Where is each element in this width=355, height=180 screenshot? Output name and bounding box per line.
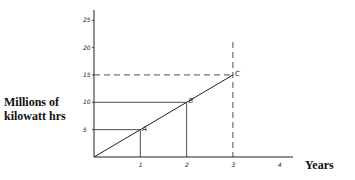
y-tick-label: 15 [83, 71, 91, 78]
x-tick-label: 4 [278, 161, 282, 168]
point-label-a: A [141, 125, 147, 133]
line-chart: 5101520251234ABC [0, 0, 355, 180]
x-tick-label: 3 [231, 161, 235, 168]
y-tick-label: 25 [83, 16, 91, 23]
series-line [94, 75, 233, 157]
x-tick-label: 1 [139, 161, 143, 168]
x-tick-label: 2 [185, 161, 189, 168]
y-tick-label: 5 [83, 126, 87, 133]
point-label-c: C [235, 70, 240, 78]
y-tick-label: 20 [83, 44, 91, 51]
point-label-b: B [189, 97, 194, 105]
y-tick-label: 10 [83, 98, 91, 105]
